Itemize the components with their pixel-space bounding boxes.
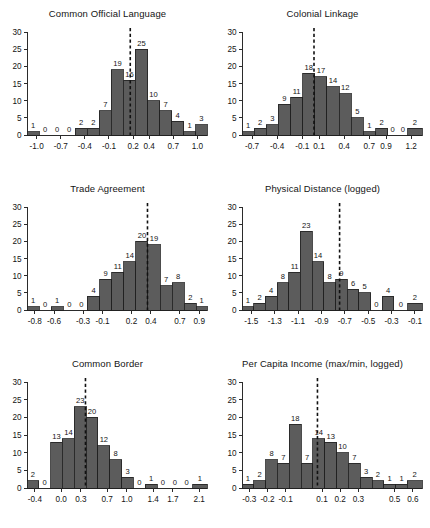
x-tick-label: -0.4	[78, 142, 93, 151]
y-tick-label: 10	[227, 272, 237, 281]
y-tick-label: 15	[12, 255, 22, 264]
y-tick-label: 30	[227, 378, 237, 387]
y-tick-label: 0	[17, 131, 22, 140]
bar-value-label: 6	[351, 279, 355, 288]
bar-value-label: 17	[317, 66, 325, 75]
y-tick-label: 0	[232, 484, 237, 493]
bar-value-label: 20	[88, 407, 96, 416]
y-tick-label: 30	[12, 203, 22, 212]
y-tick-label: 25	[12, 45, 22, 54]
x-tick-label: 0.1	[313, 142, 325, 151]
y-tick-label: 25	[12, 220, 22, 229]
bar-value-label: 8	[281, 272, 285, 281]
histogram-bar	[242, 307, 254, 310]
bar-value-label: 11	[114, 262, 122, 271]
bar-value-label: 2	[257, 293, 261, 302]
histogram-bar	[87, 128, 99, 135]
x-tick-label: 0.6	[407, 495, 419, 504]
y-tick-label: 10	[12, 97, 22, 106]
bar-value-label: 0	[173, 478, 177, 487]
bar-value-label: 12	[341, 83, 349, 92]
plot-area: 0510152025301000227191625107413-1.0-0.7-…	[0, 20, 215, 175]
bar-value-label: 0	[43, 478, 47, 487]
x-tick-label: -0.6	[47, 317, 62, 326]
bar-value-label: 2	[379, 118, 383, 127]
panel-title: Per Capita Income (max/min, logged)	[215, 358, 430, 369]
x-tick-label: 0.3	[353, 495, 365, 504]
bar-value-label: 13	[326, 432, 334, 441]
histogram-bar	[172, 121, 184, 135]
histogram-bar	[336, 279, 348, 310]
histogram-bar	[148, 101, 160, 135]
bar-value-label: 1	[31, 296, 35, 305]
x-tick-label: 0.7	[168, 142, 180, 151]
y-tick-label: 10	[12, 272, 22, 281]
x-tick-label: -0.1	[295, 142, 310, 151]
y-tick-label: 5	[17, 289, 22, 298]
histogram-panel: Common Border051015202530201314232012830…	[0, 350, 215, 528]
histogram-bar	[122, 477, 134, 488]
bar-value-label: 11	[293, 87, 301, 96]
x-tick-label: 0.1	[316, 495, 328, 504]
histogram-bar	[110, 460, 122, 488]
y-tick-label: 20	[12, 413, 22, 422]
y-tick-label: 25	[227, 220, 237, 229]
bar-value-label: 10	[149, 90, 157, 99]
x-tick-label: -0.5	[361, 317, 376, 326]
bar-value-label: 2	[413, 470, 417, 479]
bar-value-label: 3	[125, 467, 129, 476]
histogram-bar	[266, 125, 278, 135]
histogram-bar	[27, 132, 39, 135]
histogram-bar	[98, 446, 110, 488]
x-tick-label: -0.7	[338, 317, 353, 326]
histogram-bar	[87, 296, 99, 310]
x-tick-label: 0.7	[364, 142, 376, 151]
histogram-bar	[327, 87, 339, 135]
bar-value-label: 8	[176, 272, 180, 281]
histogram-bar	[184, 132, 196, 135]
bar-value-label: 0	[374, 300, 378, 309]
x-tick-label: 1.4	[147, 495, 159, 504]
bar-value-label: 2	[376, 470, 380, 479]
x-tick-label: 0.9	[194, 317, 206, 326]
plot-area: 0510152025301287187141310732112-0.3-0.2-…	[215, 370, 430, 528]
bar-value-label: 8	[269, 449, 273, 458]
bar-value-label: 1	[198, 474, 202, 483]
bar-value-label: 1	[149, 474, 153, 483]
y-tick-label: 15	[227, 80, 237, 89]
y-tick-label: 15	[12, 431, 22, 440]
x-tick-label: -0.9	[314, 317, 329, 326]
panel-title: Physical Distance (logged)	[215, 183, 430, 194]
histogram-bar	[384, 484, 396, 488]
histogram-bar	[408, 128, 422, 135]
bar-value-label: 18	[291, 414, 299, 423]
histogram-bar	[408, 303, 422, 310]
bar-value-label: 14	[314, 251, 322, 260]
x-tick-label: -0.2	[260, 495, 275, 504]
histogram-bar	[124, 262, 136, 310]
x-tick-label: -0.1	[279, 495, 294, 504]
histogram-bar	[278, 104, 290, 135]
plot-area: 05101520253020131423201283010001-0.40.00…	[0, 370, 215, 528]
histogram-panel: Colonial Linkage051015202530123911181714…	[215, 0, 430, 175]
bar-value-label: 14	[329, 76, 337, 85]
histogram-bar	[254, 128, 266, 135]
x-tick-label: 0.2	[334, 495, 346, 504]
bar-value-label: 7	[352, 453, 356, 462]
histogram-bar	[145, 484, 157, 488]
bar-value-label: 18	[305, 63, 313, 72]
histogram-bar	[289, 424, 301, 488]
y-tick-label: 5	[232, 289, 237, 298]
bar-value-label: 1	[246, 296, 250, 305]
bar-value-label: 7	[281, 453, 285, 462]
x-tick-label: -0.1	[102, 142, 117, 151]
x-tick-label: 1.0	[121, 495, 133, 504]
y-tick-label: 30	[12, 28, 22, 37]
histogram-bar	[254, 303, 266, 310]
panel-title: Colonial Linkage	[215, 8, 430, 19]
histogram-bar	[148, 245, 160, 310]
histogram-bar	[254, 481, 266, 488]
y-tick-label: 5	[17, 114, 22, 123]
x-tick-label: -0.7	[245, 142, 260, 151]
x-tick-label: 0.4	[143, 142, 155, 151]
